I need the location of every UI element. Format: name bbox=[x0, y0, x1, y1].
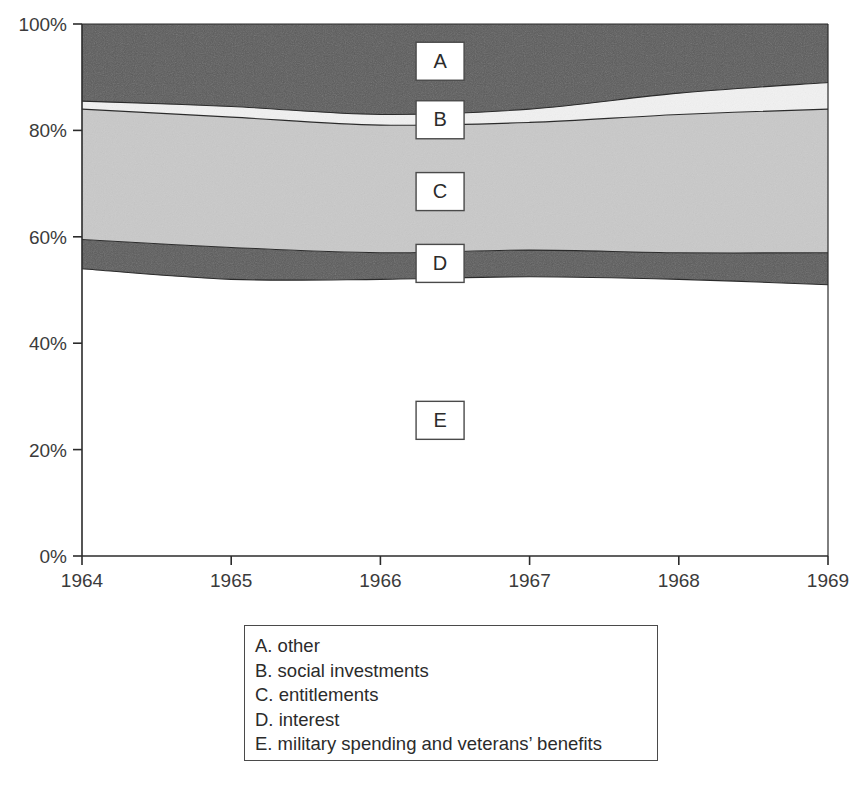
x-axis-tick-label: 1965 bbox=[210, 570, 252, 591]
x-axis-ticks: 196419651966196719681969 bbox=[61, 556, 849, 591]
x-axis-tick-label: 1964 bbox=[61, 570, 104, 591]
marker-label: D bbox=[433, 252, 447, 274]
x-axis-tick-label: 1969 bbox=[807, 570, 849, 591]
x-axis-tick-label: 1967 bbox=[508, 570, 550, 591]
y-axis-ticks: 0%20%40%60%80%100% bbox=[18, 14, 82, 567]
legend-item-a: A. other bbox=[255, 634, 657, 659]
y-axis-tick-label: 0% bbox=[40, 546, 68, 567]
marker-label: C bbox=[433, 180, 447, 202]
marker-label: A bbox=[433, 50, 447, 72]
y-axis-tick-label: 100% bbox=[18, 14, 67, 35]
x-axis-tick-label: 1968 bbox=[658, 570, 700, 591]
x-axis-tick-label: 1966 bbox=[359, 570, 401, 591]
legend-item-c: C. entitlements bbox=[255, 683, 657, 708]
y-axis-tick-label: 40% bbox=[29, 333, 67, 354]
marker-label: E bbox=[433, 409, 446, 431]
legend-item-d: D. interest bbox=[255, 708, 657, 733]
series-marker-b: B bbox=[416, 101, 464, 139]
y-axis-tick-label: 80% bbox=[29, 120, 67, 141]
series-marker-e: E bbox=[416, 401, 464, 439]
legend-item-b: B. social investments bbox=[255, 659, 657, 684]
y-axis-tick-label: 20% bbox=[29, 440, 67, 461]
stacked-area-chart: 0%20%40%60%80%100% 196419651966196719681… bbox=[0, 0, 863, 800]
marker-label: B bbox=[433, 108, 446, 130]
series-marker-a: A bbox=[416, 42, 464, 80]
legend-item-e: E. military spending and veterans’ benef… bbox=[255, 732, 657, 757]
series-marker-d: D bbox=[416, 244, 464, 282]
legend-panel: A. other B. social investments C. entitl… bbox=[244, 625, 658, 761]
y-axis-tick-label: 60% bbox=[29, 227, 67, 248]
series-marker-c: C bbox=[416, 173, 464, 211]
